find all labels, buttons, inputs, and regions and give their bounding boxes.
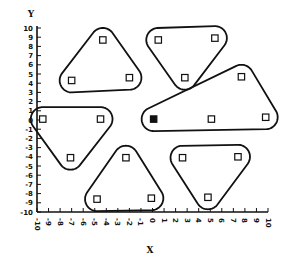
y-tick-label: 7	[28, 52, 33, 60]
x-tick-label: 1	[160, 218, 168, 223]
data-point	[235, 154, 241, 160]
data-point	[155, 37, 161, 43]
y-tick-label: 5	[28, 71, 33, 79]
y-tick-label: 8	[28, 43, 33, 51]
x-tick-label: -9	[44, 218, 52, 226]
data-point	[208, 116, 214, 122]
highlighted-data-point	[150, 116, 156, 122]
y-tick-label: 3	[28, 89, 33, 97]
x-tick-label: -4	[102, 218, 110, 226]
x-axis-title: X	[147, 245, 154, 255]
y-tick-label: -6	[25, 172, 33, 180]
x-tick-label: 5	[206, 218, 214, 223]
x-tick-label: -10	[33, 218, 41, 231]
y-tick-label: -5	[25, 163, 33, 171]
data-point	[94, 196, 100, 202]
y-tick-label: 9	[28, 34, 33, 42]
data-point	[40, 116, 46, 122]
points	[40, 35, 269, 202]
y-tick-label: -1	[25, 126, 33, 134]
data-point	[262, 114, 268, 120]
x-tick-label: 9	[252, 218, 260, 223]
x-tick-label: -5	[90, 218, 98, 226]
x-tick-label: -2	[125, 218, 133, 226]
data-point	[205, 194, 211, 200]
y-tick-label: 2	[28, 98, 33, 106]
y-axis-title: Y	[27, 9, 35, 19]
data-point	[68, 77, 74, 83]
y-tick-label: -3	[25, 144, 33, 152]
y-tick-label: -10	[20, 209, 33, 217]
y-tick-label: -2	[25, 135, 33, 143]
x-tick-label: -8	[56, 218, 64, 226]
y-tick-label: 4	[28, 80, 33, 88]
x-tick-label: 6	[217, 218, 225, 223]
data-point	[67, 155, 73, 161]
x-tick-label: 0	[148, 218, 156, 223]
y-tick-label: -7	[25, 181, 33, 189]
data-point	[182, 74, 188, 80]
x-tick-label: 7	[229, 218, 237, 223]
x-tick-label: 8	[240, 218, 248, 223]
x-tick-label: -6	[79, 218, 87, 226]
x-tick-label: -1	[136, 218, 144, 226]
y-tick-label: 10	[23, 25, 33, 33]
x-tick-label: -7	[67, 218, 75, 226]
x-tick-label: 10	[264, 218, 272, 228]
data-point	[126, 74, 132, 80]
data-point	[238, 74, 244, 80]
y-tick-label: -9	[25, 199, 33, 207]
data-point	[123, 155, 129, 161]
x-tick-label: 3	[183, 218, 191, 223]
data-point	[100, 37, 106, 43]
cluster-scatter-chart: -10-9-8-7-6-5-4-3-2-1012345678910-10-9-8…	[0, 0, 289, 268]
y-tick-label: -4	[25, 153, 33, 161]
data-point	[179, 155, 185, 161]
y-tick-label: 6	[28, 61, 33, 69]
data-point	[148, 195, 154, 201]
y-tick-label: -8	[25, 190, 33, 198]
x-tick-label: -3	[113, 218, 121, 226]
x-tick-label: 4	[194, 218, 202, 223]
x-tick-label: 2	[171, 218, 179, 223]
data-point	[97, 116, 103, 122]
data-point	[212, 35, 218, 41]
